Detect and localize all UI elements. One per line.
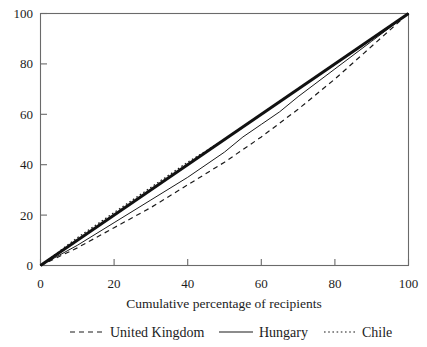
x-axis-ticks [41,259,409,266]
x-tick-label-20: 20 [108,276,121,291]
x-tick-label-80: 80 [328,276,341,291]
chart-canvas: 0 20 40 60 80 100 0 20 40 60 80 100 Cumu… [0,0,427,347]
y-tick-label-40: 40 [20,157,33,172]
y-tick-label-80: 80 [20,56,33,71]
legend-label-chile: Chile [362,325,392,340]
y-tick-label-0: 0 [27,258,34,273]
data-series-group [41,14,409,266]
y-tick-label-100: 100 [14,6,34,21]
legend-label-hungary: Hungary [259,325,308,340]
y-tick-label-60: 60 [20,107,33,122]
chart-legend: United Kingdom Hungary Chile [70,325,392,340]
x-tick-label-100: 100 [399,276,419,291]
y-tick-label-20: 20 [20,208,33,223]
x-tick-label-40: 40 [181,276,194,291]
x-axis-tick-labels: 0 20 40 60 80 100 [37,276,418,291]
x-tick-label-0: 0 [37,276,44,291]
x-axis-title: Cumulative percentage of recipients [126,296,321,311]
legend-label-united-kingdom: United Kingdom [110,325,205,340]
series-line-line-of-equality [41,14,409,266]
lorenz-curve-chart: 0 20 40 60 80 100 0 20 40 60 80 100 Cumu… [0,0,427,347]
x-tick-label-60: 60 [255,276,268,291]
y-axis-tick-labels: 0 20 40 60 80 100 [14,6,34,273]
y-axis-ticks [41,14,48,266]
